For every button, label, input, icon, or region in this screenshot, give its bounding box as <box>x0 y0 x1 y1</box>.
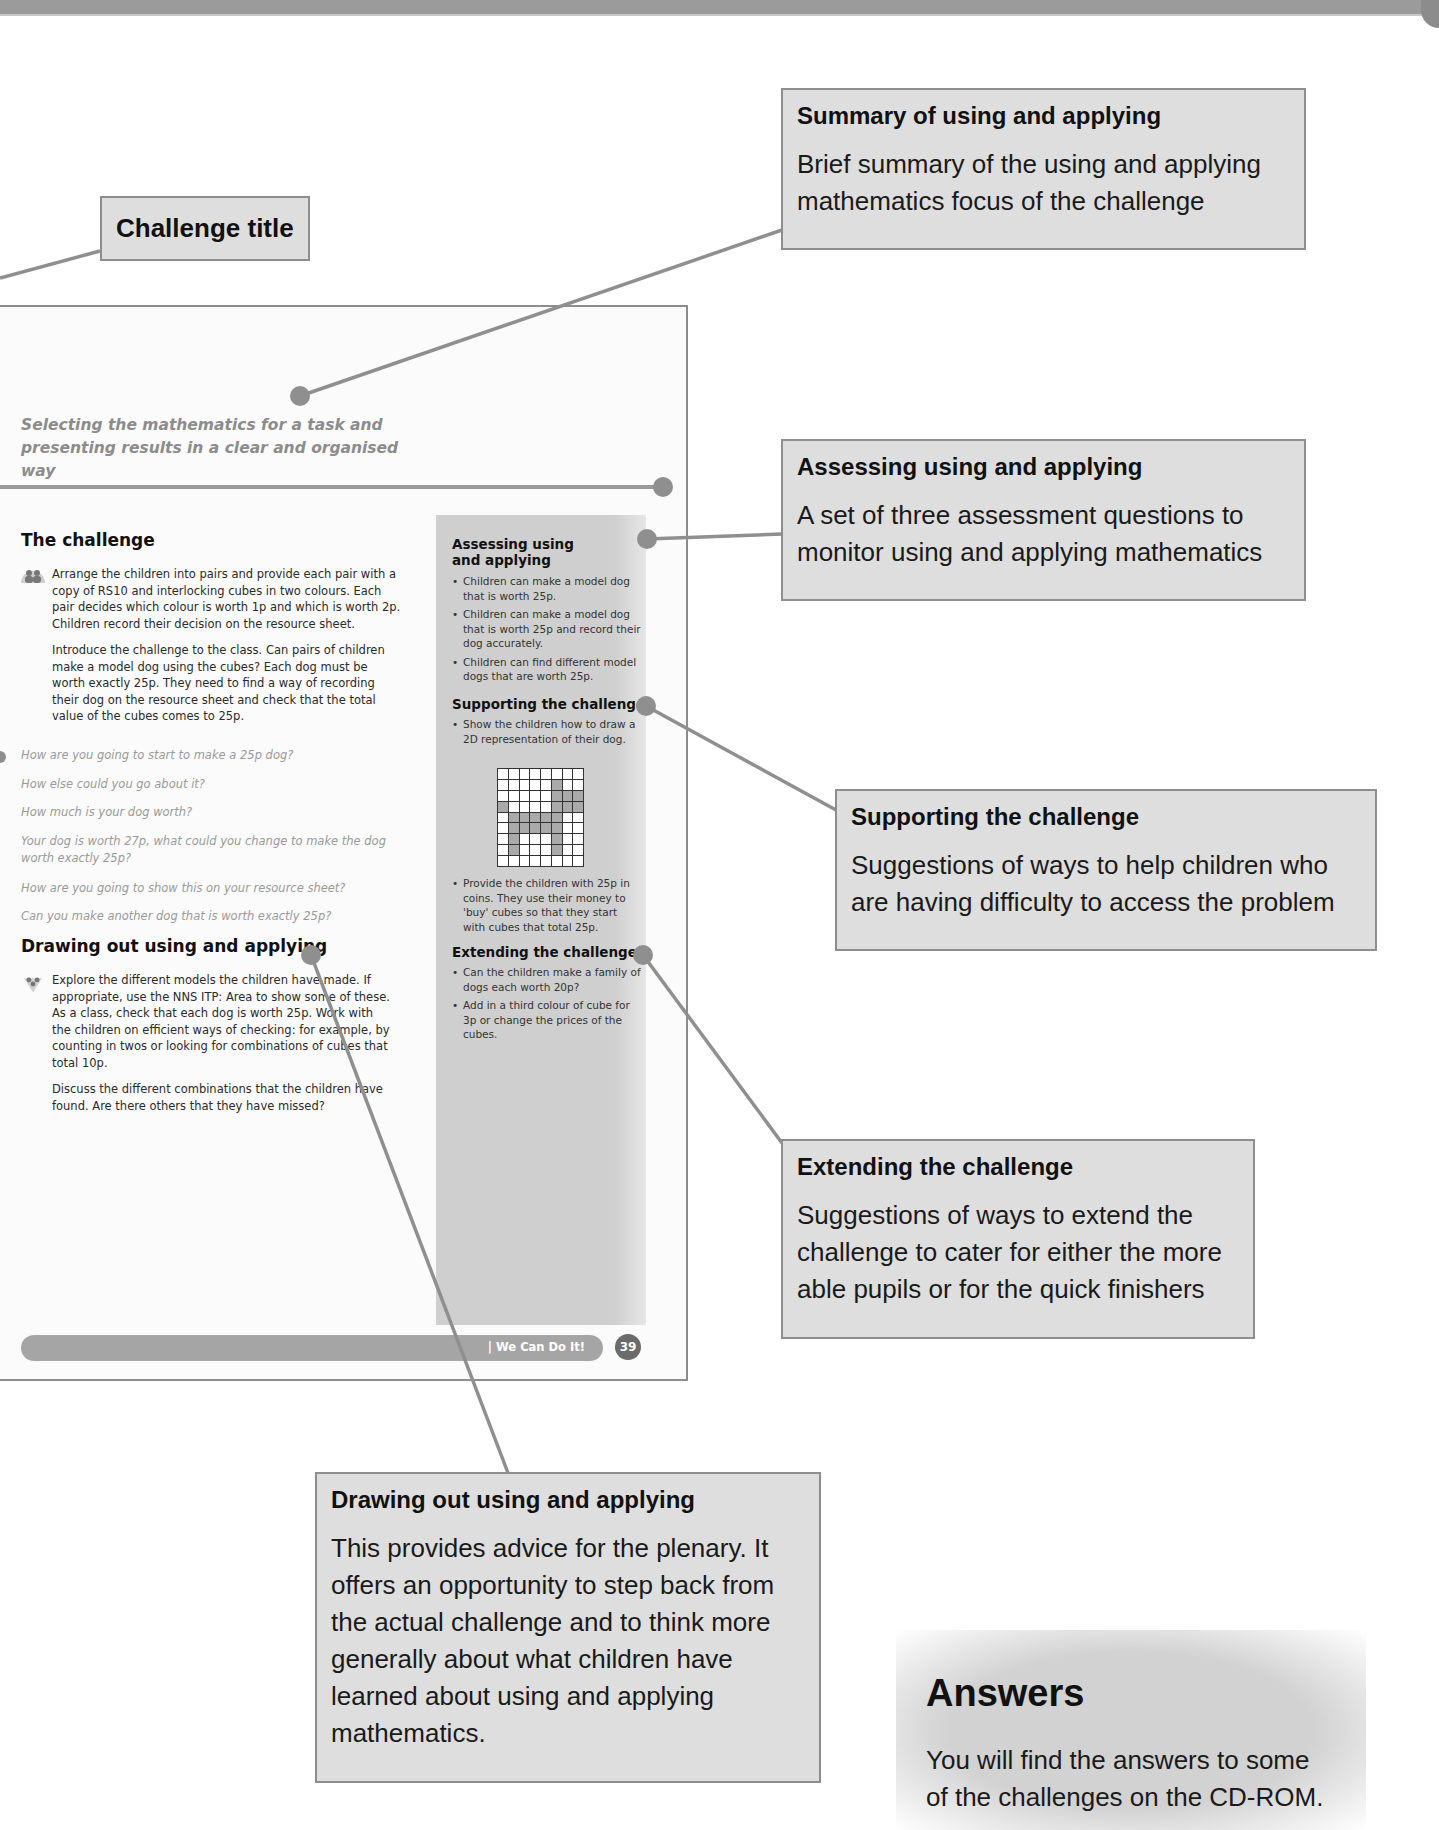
callout-title: Extending the challenge <box>797 1153 1253 1181</box>
grid-cell <box>520 856 530 866</box>
heading-line: Assessing using <box>452 536 574 552</box>
question: How else could you go about it? <box>21 776 401 793</box>
grid-cell <box>563 769 573 779</box>
grid-cell <box>530 856 540 866</box>
grid-cell <box>520 780 530 790</box>
question: Your dog is worth 27p, what could you ch… <box>21 833 391 866</box>
drawing-out-heading: Drawing out using and applying <box>21 936 327 956</box>
top-bar <box>0 0 1439 16</box>
grid-cell <box>530 802 540 812</box>
supporting-list-continued: Provide the children with 25p in coins. … <box>452 876 642 938</box>
grid-cell <box>573 769 583 779</box>
sidebar-supporting-heading: Supporting the challenge <box>452 696 645 712</box>
grid-cell <box>573 834 583 844</box>
question: How are you going to start to make a 25p… <box>21 747 401 764</box>
grid-cell <box>541 834 551 844</box>
callout-body: This provides advice for the plenary. It… <box>331 1530 805 1752</box>
grid-cell <box>498 802 508 812</box>
grid-cell <box>541 856 551 866</box>
grid-cell <box>509 791 519 801</box>
list-item: Can the children make a family of dogs e… <box>452 965 642 994</box>
grid-cell <box>530 813 540 823</box>
callout-title: Summary of using and applying <box>797 102 1304 130</box>
grid-cell <box>498 834 508 844</box>
grid-cell <box>509 813 519 823</box>
page-number: 39 <box>615 1334 641 1360</box>
plenary-group-icon <box>20 975 46 993</box>
grid-cell <box>498 813 508 823</box>
grid-cell <box>520 813 530 823</box>
callout-body: Suggestions of ways to help children who… <box>851 847 1361 921</box>
grid-cell <box>530 780 540 790</box>
grid-cell <box>520 802 530 812</box>
grid-cell <box>541 845 551 855</box>
question: How much is your dog worth? <box>21 804 401 821</box>
grid-cell <box>552 856 562 866</box>
grid-cell <box>520 791 530 801</box>
challenge-paragraph: Arrange the children into pairs and prov… <box>52 566 402 632</box>
grid-cell <box>509 856 519 866</box>
page-summary: Selecting the mathematics for a task and… <box>21 414 421 483</box>
grid-cell <box>552 813 562 823</box>
challenge-body: Arrange the children into pairs and prov… <box>52 566 402 735</box>
callout-body: Suggestions of ways to extend the challe… <box>797 1197 1239 1308</box>
grid-cell <box>509 802 519 812</box>
list-item: Show the children how to draw a 2D repre… <box>452 717 642 746</box>
grid-cell <box>520 769 530 779</box>
grid-cell <box>552 769 562 779</box>
grid-cell <box>509 780 519 790</box>
sidebar-extending-heading: Extending the challenge <box>452 944 637 960</box>
grid-cell <box>530 823 540 833</box>
grid-cell <box>541 802 551 812</box>
grid-cell <box>563 845 573 855</box>
grid-cell <box>541 780 551 790</box>
grid-cell <box>563 856 573 866</box>
callout-supporting: Supporting the challenge Suggestions of … <box>835 789 1377 951</box>
grid-cell <box>563 791 573 801</box>
grid-cell <box>509 823 519 833</box>
grid-cell <box>563 802 573 812</box>
callout-summary: Summary of using and applying Brief summ… <box>781 88 1306 250</box>
grid-cell <box>520 834 530 844</box>
grid-cell <box>498 823 508 833</box>
grid-cell <box>552 780 562 790</box>
grid-cell <box>552 845 562 855</box>
grid-cell <box>552 802 562 812</box>
list-item: Children can make a model dog that is wo… <box>452 574 642 603</box>
grid-cell <box>509 834 519 844</box>
grid-cell <box>498 791 508 801</box>
sidebar-assessing-heading: Assessing using and applying <box>452 536 574 568</box>
the-challenge-heading: The challenge <box>21 530 155 550</box>
question: How are you going to show this on your r… <box>21 880 401 897</box>
callout-challenge-title: Challenge title <box>100 196 310 261</box>
callout-assessing: Assessing using and applying A set of th… <box>781 439 1306 601</box>
grid-cell <box>541 823 551 833</box>
callout-extending: Extending the challenge Suggestions of w… <box>781 1139 1255 1339</box>
callout-body: Brief summary of the using and applying … <box>797 146 1290 220</box>
callout-drawing-out: Drawing out using and applying This prov… <box>315 1472 821 1783</box>
grid-cell <box>573 823 583 833</box>
callout-body: A set of three assessment questions to m… <box>797 497 1290 571</box>
grid-cell <box>530 769 540 779</box>
grid-cell <box>509 769 519 779</box>
grid-cell <box>530 791 540 801</box>
supporting-list: Show the children how to draw a 2D repre… <box>452 717 642 750</box>
heading-line: and applying <box>452 552 574 568</box>
grid-cell <box>498 769 508 779</box>
callout-title: Supporting the challenge <box>851 803 1375 831</box>
page-divider <box>0 485 662 489</box>
grid-cell <box>530 834 540 844</box>
grid-cell <box>552 791 562 801</box>
list-item: Children can find different model dogs t… <box>452 655 642 684</box>
grid-cell <box>552 823 562 833</box>
grid-cell <box>573 813 583 823</box>
footer-label: | We Can Do It! <box>488 1340 585 1354</box>
page-curl <box>1421 0 1439 28</box>
grid-cell <box>498 845 508 855</box>
grid-cell <box>541 813 551 823</box>
grid-cell <box>509 845 519 855</box>
pairs-icon <box>20 566 46 584</box>
answers-title: Answers <box>926 1672 1084 1715</box>
assessing-list: Children can make a model dog that is wo… <box>452 574 642 688</box>
drawing-out-paragraph: Discuss the different combinations that … <box>52 1081 392 1114</box>
